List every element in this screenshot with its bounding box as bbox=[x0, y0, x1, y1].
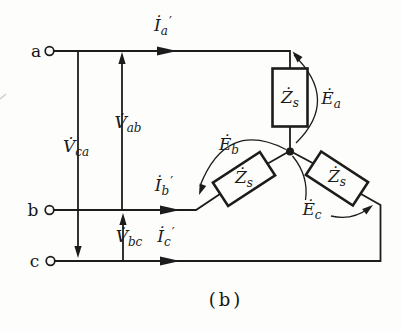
emf-arrowhead-b bbox=[199, 184, 206, 196]
voltage-arrow-bc bbox=[119, 213, 126, 225]
circuit-figure: a b c İa′ İb′ İc′ V̇ab V̇ca V̇bc Żs Żs Ż… bbox=[0, 0, 402, 331]
label-voltage-bc: V̇bc bbox=[116, 228, 143, 248]
wire-phase-a bbox=[54, 51, 290, 149]
voltage-arrow-ca bbox=[74, 246, 81, 258]
label-voltage-ca: V̇ca bbox=[63, 138, 89, 158]
emf-arrowhead-c bbox=[362, 205, 373, 215]
voltage-arrow-ab bbox=[118, 52, 125, 64]
terminal-a-circle bbox=[45, 47, 54, 56]
terminal-label-c: c bbox=[30, 253, 40, 270]
wire-star-to-left-impedance bbox=[267, 152, 288, 164]
label-current-c: İc′ bbox=[157, 226, 174, 248]
label-current-a: İa′ bbox=[154, 15, 172, 37]
circuit-wiring-layer bbox=[0, 0, 402, 331]
label-voltage-ab: V̇ab bbox=[114, 114, 141, 134]
scan-artifact bbox=[0, 94, 6, 99]
label-emf-b: Ėb bbox=[219, 136, 239, 156]
label-impedance-c: Żs bbox=[328, 168, 346, 188]
terminal-label-a: a bbox=[31, 43, 41, 60]
star-junction-dot bbox=[286, 148, 294, 156]
emf-arc-c-left bbox=[293, 156, 307, 200]
terminal-label-b: b bbox=[28, 202, 39, 219]
emf-arrowhead-a bbox=[293, 52, 303, 63]
current-arrow-c bbox=[160, 257, 180, 266]
label-current-b: İb′ bbox=[155, 175, 173, 197]
figure-caption: (b) bbox=[209, 291, 244, 309]
current-arrow-b bbox=[160, 206, 180, 215]
terminal-c-circle bbox=[46, 257, 55, 266]
current-arrow-a bbox=[157, 47, 177, 56]
label-emf-a: Ėa bbox=[321, 90, 341, 110]
label-impedance-b: Żs bbox=[235, 169, 253, 189]
wire-phase-c bbox=[55, 194, 381, 261]
label-emf-c: Ėc bbox=[302, 201, 321, 221]
label-impedance-a: Żs bbox=[281, 89, 299, 109]
terminal-b-circle bbox=[45, 206, 54, 215]
wire-star-to-right-impedance bbox=[292, 152, 314, 164]
